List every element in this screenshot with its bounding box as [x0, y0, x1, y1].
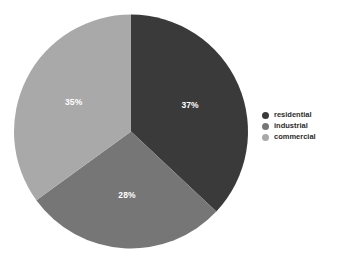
pie-slice-label-residential: 37% — [181, 100, 199, 110]
pie-slice-label-industrial: 28% — [118, 190, 136, 200]
pie-chart: 37% 28% 35% residential industrial comme… — [0, 0, 340, 263]
chart-legend: residential industrial commercial — [262, 110, 338, 143]
legend-item-residential[interactable]: residential — [262, 110, 338, 120]
legend-item-industrial[interactable]: industrial — [262, 121, 338, 131]
legend-swatch-icon — [262, 112, 269, 119]
legend-item-label: residential — [274, 110, 312, 120]
legend-item-label: industrial — [274, 121, 308, 131]
legend-swatch-icon — [262, 134, 269, 141]
legend-item-label: commercial — [274, 132, 316, 142]
legend-swatch-icon — [262, 123, 269, 130]
legend-item-commercial[interactable]: commercial — [262, 132, 338, 142]
pie-slice-label-commercial: 35% — [65, 97, 83, 107]
